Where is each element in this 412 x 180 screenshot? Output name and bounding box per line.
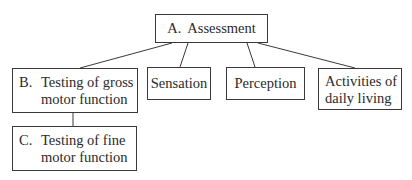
node-adl-line1: Activities of: [325, 73, 401, 90]
node-a-label: Assessment: [187, 20, 255, 36]
node-sensation-label: Sensation: [151, 75, 207, 92]
edge-a-to-b: [80, 43, 172, 68]
node-c-letter: C.: [19, 132, 41, 149]
edge-a-to-adl: [258, 43, 355, 68]
node-sensation: Sensation: [147, 67, 211, 100]
node-b-line1: Testing of gross: [41, 74, 133, 90]
node-c-line2: motor function: [19, 149, 136, 166]
node-a-letter: A.: [167, 20, 181, 36]
node-b-letter: B.: [19, 74, 41, 91]
node-c-fine-motor: C.Testing of fine motor function: [12, 126, 137, 171]
node-b-gross-motor: B.Testing of gross motor function: [12, 68, 138, 113]
node-activities-daily-living: Activities of daily living: [318, 68, 402, 110]
edge-a-to-sensation: [180, 43, 188, 67]
node-adl-line2: daily living: [325, 90, 401, 107]
node-perception: Perception: [226, 67, 305, 100]
node-perception-label: Perception: [234, 75, 296, 92]
node-b-line2: motor function: [19, 91, 137, 108]
node-a-assessment: A.Assessment: [155, 14, 268, 43]
edge-a-to-perception: [247, 43, 255, 67]
node-c-line1: Testing of fine: [41, 132, 125, 148]
